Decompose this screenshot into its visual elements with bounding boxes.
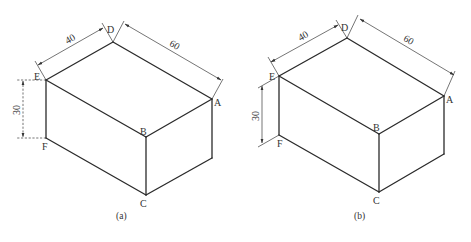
vertex-label-b: B xyxy=(373,122,380,133)
figure-a: 40 60 30 D E A B F C (a) xyxy=(11,21,223,222)
dimension-label: 40 xyxy=(296,28,310,43)
figure-b: 40 60 30 D E A B F C (b) xyxy=(250,15,455,222)
dimension-30: 30 xyxy=(250,76,279,147)
dimension-label: 30 xyxy=(11,105,22,115)
figure-caption-a: (a) xyxy=(116,211,127,222)
box-edges xyxy=(279,38,444,192)
vertex-label-f: F xyxy=(42,141,48,152)
vertex-label-d: D xyxy=(107,24,114,35)
vertex-label-c: C xyxy=(373,195,380,206)
vertex-label-a: A xyxy=(446,94,454,105)
vertex-label-a: A xyxy=(214,97,222,108)
vertex-label-d: D xyxy=(341,22,348,33)
dimension-30: 30 xyxy=(11,80,46,138)
dimension-60: 60 xyxy=(113,21,223,99)
dimension-40: 40 xyxy=(268,20,347,76)
vertex-label-f: F xyxy=(277,138,283,149)
vertex-label-e: E xyxy=(269,71,275,82)
vertex-label-b: B xyxy=(140,126,147,137)
box-edges xyxy=(46,42,212,195)
dimension-60: 60 xyxy=(347,15,455,96)
vertex-label-c: C xyxy=(140,198,147,209)
dimension-40: 40 xyxy=(35,23,113,80)
vertex-label-e: E xyxy=(34,71,40,82)
dimension-label: 30 xyxy=(250,111,261,121)
isometric-drawing-canvas: 40 60 30 D E A B F C (a) xyxy=(0,0,471,242)
figure-caption-b: (b) xyxy=(354,211,365,222)
